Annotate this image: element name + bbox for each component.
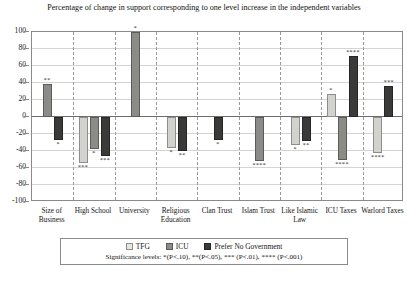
bar-tfg <box>327 94 336 117</box>
bar-png <box>214 117 223 140</box>
significance-marker: **** <box>342 49 365 55</box>
y-axis-tick-mark <box>24 133 29 134</box>
bar-icu <box>131 32 140 117</box>
y-axis-tick-label: 80 <box>0 43 26 52</box>
significance-marker: ** <box>171 152 194 158</box>
bar-tfg <box>373 117 382 153</box>
y-axis-tick-label: 100 <box>0 26 26 35</box>
legend-swatch-png <box>204 243 211 250</box>
bar-png <box>54 117 63 140</box>
legend-label: TFG <box>136 242 150 251</box>
group-separator <box>115 32 116 200</box>
bar-icu <box>43 84 52 117</box>
y-axis-tick-label: 40 <box>0 77 26 86</box>
y-axis-tick-mark <box>24 65 29 66</box>
significance-marker: **** <box>366 154 389 160</box>
gridline <box>32 82 402 83</box>
x-axis-label: Like Islamic Law <box>276 206 323 224</box>
x-axis-label: Religious Education <box>152 206 199 224</box>
significance-marker: *** <box>377 79 400 85</box>
legend-label: Prefer No Government <box>214 242 282 251</box>
y-axis-tick-label: -40 <box>0 145 26 154</box>
bar-png <box>302 117 311 141</box>
y-axis-tick-label: -100 <box>0 196 26 205</box>
group-separator <box>363 32 364 200</box>
significance-marker: *** <box>72 164 95 170</box>
legend-item-icu: ICU <box>166 242 189 251</box>
group-separator <box>156 32 157 200</box>
y-axis-tick-mark <box>24 184 29 185</box>
y-axis-tick-mark <box>24 167 29 168</box>
y-axis-tick-mark <box>24 99 29 100</box>
gridline <box>32 184 402 185</box>
legend: TFGICUPrefer No Government Significance … <box>60 238 348 265</box>
y-axis-tick-mark <box>24 48 29 49</box>
bar-icu <box>90 117 99 149</box>
y-axis-tick-label: 60 <box>0 60 26 69</box>
significance-marker: **** <box>248 162 271 168</box>
x-axis-label: Size of Business <box>28 206 75 224</box>
x-axis-label: Warlord Taxes <box>359 206 406 215</box>
legend-items: TFGICUPrefer No Government <box>65 242 343 251</box>
y-axis-tick-mark <box>24 116 29 117</box>
group-separator <box>73 32 74 200</box>
x-axis-label: ICU Taxes <box>317 206 364 215</box>
significance-marker: * <box>207 141 230 147</box>
y-axis-tick-label: 0 <box>0 111 26 120</box>
x-axis-label: Islam Trust <box>235 206 282 215</box>
bar-icu <box>255 117 264 161</box>
legend-item-png: Prefer No Government <box>204 242 282 251</box>
significance-marker: * <box>47 141 70 147</box>
group-separator <box>197 32 198 200</box>
significance-marker: *** <box>94 157 117 163</box>
y-axis-tick-mark <box>24 201 29 202</box>
significance-marker: * <box>124 25 147 31</box>
y-axis-tick-label: -80 <box>0 179 26 188</box>
bar-icu <box>338 117 347 160</box>
chart-container: Percentage of change in support correspo… <box>0 0 407 281</box>
bar-png <box>178 117 187 151</box>
group-separator <box>321 32 322 200</box>
bar-png <box>384 86 393 117</box>
legend-item-tfg: TFG <box>126 242 150 251</box>
group-separator <box>280 32 281 200</box>
y-axis-tick-label: -20 <box>0 128 26 137</box>
x-axis-label: High School <box>69 206 116 215</box>
significance-note: Significance levels: *(P<.10), **(P<.05)… <box>65 253 343 261</box>
y-axis-tick-label: -60 <box>0 162 26 171</box>
y-axis-tick-mark <box>24 31 29 32</box>
group-separator <box>239 32 240 200</box>
chart-title: Percentage of change in support correspo… <box>28 2 380 13</box>
significance-marker: ** <box>36 77 59 83</box>
x-axis-label: University <box>111 206 158 215</box>
significance-marker: ** <box>295 142 318 148</box>
legend-label: ICU <box>176 242 189 251</box>
bar-png <box>101 117 110 156</box>
legend-swatch-icu <box>166 243 173 250</box>
significance-marker: **** <box>331 161 354 167</box>
plot-area: ************************************** <box>31 31 403 201</box>
y-axis-tick-label: 20 <box>0 94 26 103</box>
significance-marker: * <box>320 87 343 93</box>
y-axis-tick-mark <box>24 82 29 83</box>
bar-tfg <box>167 117 176 148</box>
legend-swatch-tfg <box>126 243 133 250</box>
gridline <box>32 99 402 100</box>
gridline <box>32 65 402 66</box>
x-axis-label: Clan Trust <box>193 206 240 215</box>
bar-png <box>349 56 358 117</box>
y-axis-tick-mark <box>24 150 29 151</box>
